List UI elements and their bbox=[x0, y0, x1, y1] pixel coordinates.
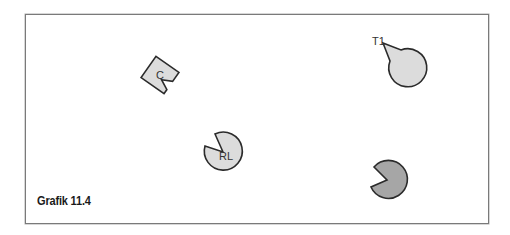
shape-rl-label: RL bbox=[219, 150, 233, 162]
shape-c-label: C bbox=[156, 69, 164, 81]
shape-t1-label: T1 bbox=[372, 35, 385, 47]
pac-circle-icon bbox=[371, 160, 407, 198]
pac-circle-icon bbox=[383, 43, 427, 87]
shape-dark bbox=[371, 160, 407, 198]
figure-stage: C T1 RL Grafik 11.4 bbox=[0, 0, 510, 235]
figure-caption: Grafik 11.4 bbox=[37, 194, 91, 208]
shape-t1 bbox=[383, 43, 427, 87]
